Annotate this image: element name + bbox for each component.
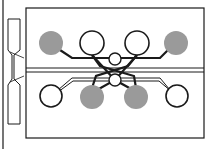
filled-pad <box>80 85 104 109</box>
open-pad <box>125 31 149 55</box>
filled-pad <box>124 85 148 109</box>
center-node-bottom <box>109 74 121 86</box>
open-pad <box>166 85 188 107</box>
chip-outline <box>26 8 204 138</box>
open-pad <box>40 85 62 107</box>
side-connector <box>8 19 20 124</box>
open-pad <box>80 31 104 55</box>
chip-diagram <box>0 0 211 149</box>
center-node-top <box>109 53 121 65</box>
filled-pad <box>164 31 188 55</box>
filled-pad <box>39 31 63 55</box>
